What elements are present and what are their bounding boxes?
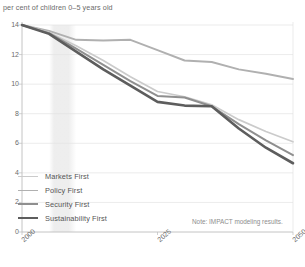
legend-item[interactable]: Policy First: [18, 183, 107, 197]
legend-item[interactable]: Markets First: [18, 169, 107, 183]
legend-swatch-line: [18, 217, 38, 219]
source-note: Note: IMPACT modeling results.: [192, 218, 283, 225]
legend-swatch-line: [18, 176, 38, 177]
legend-label: Sustainability First: [45, 214, 107, 223]
chart-canvas: [0, 0, 305, 267]
legend-item[interactable]: Sustainability First: [18, 211, 107, 225]
y-tick-label: 6: [5, 139, 19, 146]
legend-swatch-line: [18, 203, 38, 205]
legend-label: Markets First: [45, 172, 89, 181]
legend-label: Security First: [45, 200, 90, 209]
y-tick-label: 4: [5, 169, 19, 176]
y-tick-label: 14: [5, 21, 19, 28]
y-tick-label: 2: [5, 198, 19, 205]
y-tick-label: 12: [5, 51, 19, 58]
legend-label: Policy First: [45, 186, 82, 195]
chart-legend: Markets FirstPolicy FirstSecurity FirstS…: [18, 169, 107, 225]
chart-figure: per cent of children 0–5 years old 02468…: [0, 0, 305, 267]
legend-swatch-line: [18, 190, 38, 191]
y-tick-label: 10: [5, 80, 19, 87]
legend-item[interactable]: Security First: [18, 197, 107, 211]
y-tick-label: 0: [5, 228, 19, 235]
y-tick-label: 8: [5, 110, 19, 117]
